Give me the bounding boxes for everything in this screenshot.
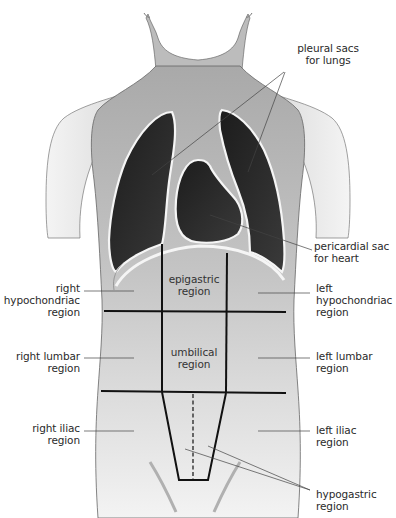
label-right-iliac: right iliac region <box>0 422 80 446</box>
label-right-hypochondriac: right hypochondriac region <box>0 282 80 318</box>
anatomy-figure: pleural sacs for lungs pericardial sac f… <box>0 0 396 518</box>
label-left-hypochondriac: left hypochondriac region <box>316 282 396 318</box>
label-hypogastric: hypogastric region <box>316 488 396 512</box>
label-pleural-sacs: pleural sacs for lungs <box>268 42 388 66</box>
label-left-lumbar: left lumbar region <box>316 350 396 374</box>
label-left-iliac: left iliac region <box>316 424 396 448</box>
label-epigastric: epigastric region <box>160 273 228 297</box>
subcostal-line <box>104 311 286 312</box>
neck <box>146 14 250 70</box>
label-umbilical: umbilical region <box>160 346 228 370</box>
label-pericardial-sac: pericardial sac for heart <box>314 240 396 264</box>
label-right-lumbar: right lumbar region <box>0 350 80 374</box>
